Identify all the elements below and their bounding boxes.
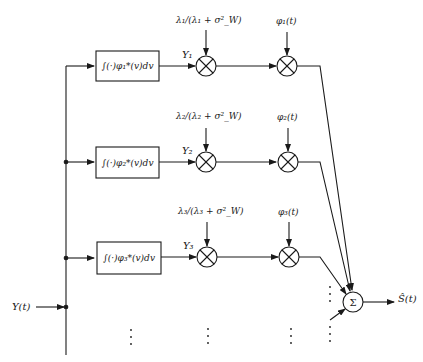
correlator-label-3: ∫(·)φ₃*(v)dv [97, 242, 161, 274]
coefficient-label-3: Y₃ [183, 241, 194, 251]
coefficient-label-1: Y₁ [182, 50, 193, 60]
basis-label-3: φ₃(t) [278, 208, 299, 217]
summer-label: Σ [343, 292, 363, 312]
basis-label-2: φ₂(t) [277, 113, 298, 122]
basis-label-1: φ₁(t) [276, 17, 297, 26]
gain-label-1: λ₁/(λ₁ + σ²_W) [176, 16, 241, 25]
input-label: Y(t) [12, 302, 30, 312]
output-label: Ŝ(t) [398, 294, 417, 304]
gain-label-2: λ₂/(λ₂ + σ²_W) [176, 112, 241, 121]
karhunen-loeve-estimator-diagram: ∫(·)φ₁*(v)dv Y₁ λ₁/(λ₁ + σ²_W) φ₁(t) ∫(·… [0, 0, 423, 362]
coefficient-label-2: Y₂ [182, 146, 193, 156]
correlator-label-2: ∫(·)φ₂*(v)dv [96, 147, 159, 178]
correlator-label-1: ∫(·)φ₁*(v)dv [96, 51, 159, 81]
gain-label-3: λ₃/(λ₃ + σ²_W) [178, 207, 243, 216]
